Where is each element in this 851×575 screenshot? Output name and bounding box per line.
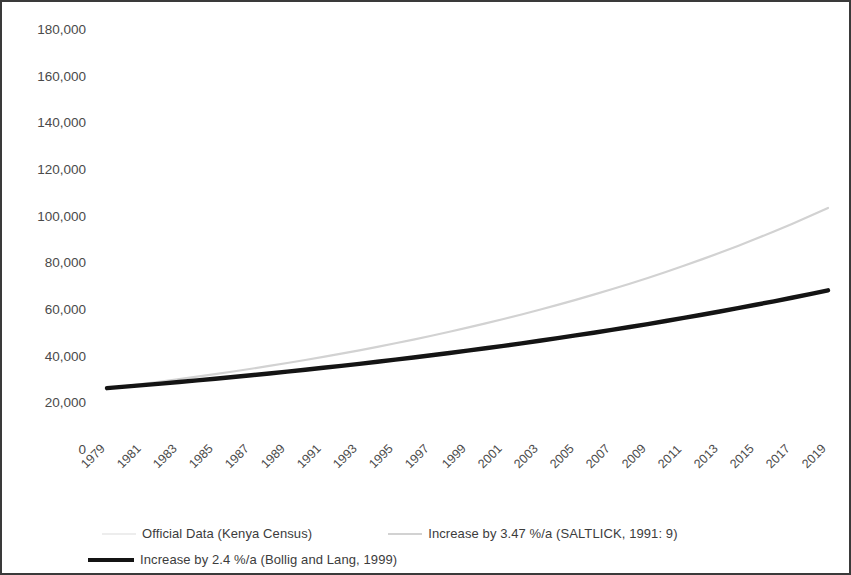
x-tick-label: 1983 [151, 442, 180, 471]
legend-label-increase-24: Increase by 2.4 %/a (Bollig and Lang, 19… [140, 552, 397, 567]
legend-row-top: Official Data (Kenya Census) Increase by… [2, 526, 849, 541]
legend-row-bottom: Increase by 2.4 %/a (Bollig and Lang, 19… [2, 552, 849, 567]
legend-label-official-data: Official Data (Kenya Census) [142, 526, 312, 541]
x-tick-label: 1991 [295, 442, 324, 471]
chart-legend: Official Data (Kenya Census) Increase by… [2, 526, 849, 567]
x-axis: 1979198119831985198719891991199319951997… [2, 2, 851, 573]
black-line-marker-icon [88, 558, 134, 562]
gray-line-marker-icon [388, 533, 422, 535]
legend-item-increase-347[interactable]: Increase by 3.47 %/a (SALTLICK, 1991: 9) [388, 526, 677, 541]
x-tick-label: 2003 [512, 442, 541, 471]
x-tick-label: 2017 [764, 442, 793, 471]
legend-label-increase-347: Increase by 3.47 %/a (SALTLICK, 1991: 9) [428, 526, 677, 541]
plot-area: 180,000160,000140,000120,000100,00080,00… [2, 2, 849, 573]
x-tick-label: 1993 [331, 442, 360, 471]
x-tick-label: 1981 [115, 442, 144, 471]
x-tick-label: 2009 [620, 442, 649, 471]
x-tick-label: 1989 [259, 442, 288, 471]
legend-item-official-data[interactable]: Official Data (Kenya Census) [102, 526, 312, 541]
x-tick-label: 2007 [584, 442, 613, 471]
x-tick-label: 2013 [692, 442, 721, 471]
x-tick-label: 2019 [800, 442, 829, 471]
x-tick-label: 1987 [223, 442, 252, 471]
x-tick-label: 2005 [548, 442, 577, 471]
x-tick-label: 1997 [403, 442, 432, 471]
x-tick-label: 1999 [440, 442, 469, 471]
x-tick-label: 2011 [656, 443, 684, 471]
x-tick-label: 2015 [728, 442, 757, 471]
x-tick-label: 1979 [79, 442, 108, 471]
chart-figure: 180,000160,000140,000120,000100,00080,00… [0, 0, 851, 575]
faint-line-marker-icon [102, 533, 136, 535]
legend-item-increase-24[interactable]: Increase by 2.4 %/a (Bollig and Lang, 19… [88, 552, 397, 567]
x-tick-label: 1985 [187, 442, 216, 471]
x-tick-label: 1995 [367, 442, 396, 471]
x-tick-label: 2001 [476, 442, 505, 471]
